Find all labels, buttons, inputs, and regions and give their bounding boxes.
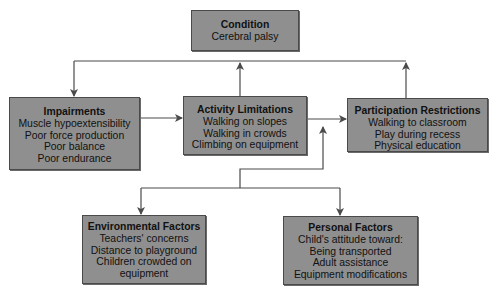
personal-item: Equipment modifications — [284, 269, 417, 281]
impairments-item: Poor balance — [10, 141, 139, 153]
condition-item: Cerebral palsy — [192, 31, 298, 43]
participation-item: Walking to classroom — [348, 117, 487, 129]
environmental-factors-box: Environmental Factors Teachers' concerns… — [82, 215, 206, 284]
personal-factors-box: Personal Factors Child's attitude toward… — [283, 216, 418, 285]
impairments-title: Impairments — [10, 106, 139, 118]
activity-item: Walking on slopes — [184, 116, 306, 128]
environmental-item: Distance to playground — [83, 245, 205, 257]
personal-item: Child's attitude toward: — [284, 234, 417, 246]
impairments-item: Poor force production — [10, 130, 139, 142]
personal-title: Personal Factors — [284, 222, 417, 234]
personal-item: Adult assistance — [284, 257, 417, 269]
condition-box: Condition Cerebral palsy — [191, 10, 299, 51]
participation-item: Play during recess — [348, 129, 487, 141]
participation-restrictions-box: Participation Restrictions Walking to cl… — [347, 98, 488, 152]
activity-title: Activity Limitations — [184, 104, 306, 116]
impairments-box: Impairments Muscle hypoextensibility Poo… — [9, 97, 140, 170]
activity-item: Walking in crowds — [184, 128, 306, 140]
environmental-item: Children crowded on — [83, 256, 205, 268]
environmental-item: Teachers' concerns — [83, 233, 205, 245]
activity-item: Climbing on equipment — [184, 139, 306, 151]
impairments-item: Poor endurance — [10, 153, 139, 165]
environmental-item: equipment — [83, 268, 205, 280]
participation-title: Participation Restrictions — [348, 105, 487, 117]
impairments-item: Muscle hypoextensibility — [10, 118, 139, 130]
personal-item: Being transported — [284, 246, 417, 258]
environmental-title: Environmental Factors — [83, 221, 205, 233]
condition-title: Condition — [192, 19, 298, 31]
participation-item: Physical education — [348, 140, 487, 152]
activity-limitations-box: Activity Limitations Walking on slopes W… — [183, 96, 307, 155]
icf-diagram: Condition Cerebral palsy Impairments Mus… — [0, 0, 497, 289]
